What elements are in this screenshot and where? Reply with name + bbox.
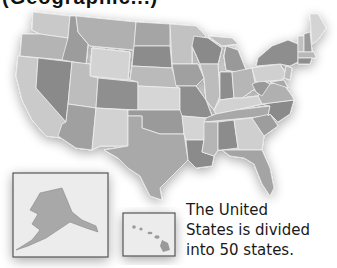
alaska-inset bbox=[13, 173, 108, 257]
island-kauai bbox=[132, 225, 136, 229]
state-oregon bbox=[20, 34, 68, 60]
state-vermont bbox=[298, 36, 304, 52]
state-michigan bbox=[224, 46, 246, 72]
state-new-hampshire bbox=[304, 32, 312, 52]
state-pennsylvania bbox=[252, 64, 286, 82]
caption-line-1: The United bbox=[186, 200, 310, 220]
island-maui bbox=[154, 235, 159, 239]
state-ohio bbox=[232, 68, 256, 98]
map-caption: The United States is divided into 50 sta… bbox=[186, 200, 310, 260]
state-connecticut-ri bbox=[298, 58, 312, 64]
state-arkansas bbox=[182, 116, 206, 140]
caption-line-2: States is divided bbox=[186, 220, 310, 240]
caption-line-3: into 50 states. bbox=[186, 240, 310, 260]
state-new-jersey bbox=[284, 66, 292, 80]
state-mississippi bbox=[202, 122, 218, 156]
state-colorado bbox=[96, 78, 138, 110]
state-kansas bbox=[138, 86, 180, 110]
state-north-dakota bbox=[134, 22, 170, 46]
state-maine bbox=[310, 14, 326, 44]
state-new-mexico bbox=[92, 108, 128, 150]
state-new-york bbox=[256, 40, 298, 66]
contiguous-us bbox=[16, 12, 326, 200]
state-indiana bbox=[220, 72, 234, 100]
state-florida bbox=[222, 150, 274, 196]
island-molokai bbox=[148, 232, 153, 234]
hawaii-inset bbox=[123, 213, 175, 256]
state-south-dakota bbox=[132, 46, 172, 68]
state-massachusetts bbox=[298, 52, 316, 58]
island-oahu bbox=[139, 227, 142, 230]
state-iowa bbox=[172, 64, 204, 86]
state-wyoming bbox=[90, 48, 130, 80]
